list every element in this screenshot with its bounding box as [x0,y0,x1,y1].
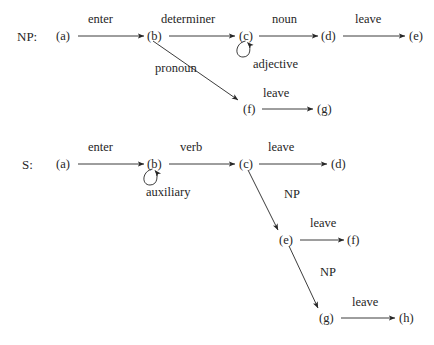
edge-label-np-leave-de: leave [355,13,381,26]
node-s-b: (b) [147,158,162,171]
edge-label-s-leave-cd: leave [268,141,294,154]
node-s-c: (c) [239,158,253,171]
machine-label-np: NP: [17,30,37,43]
edge-label-np-leave-fg: leave [263,87,289,100]
edge-label-s-leave-gh: leave [352,296,378,309]
edge-label-s-leave-ef: leave [310,217,336,230]
edge-s-auxiliary-selfloop [144,169,157,185]
node-np-b: (b) [147,30,162,43]
node-s-g: (g) [319,312,334,325]
node-np-e: (e) [409,30,423,43]
edge-s-np-eg [289,246,318,308]
node-np-c: (c) [239,30,253,43]
node-np-a: (a) [56,30,70,43]
np-edges [78,36,405,109]
edge-label-s-enter: enter [88,141,113,154]
node-s-h: (h) [399,312,414,325]
fsm-arrows-canvas [0,0,434,345]
node-s-a: (a) [56,158,70,171]
edge-s-np-ce [248,170,278,230]
node-s-d: (d) [331,158,346,171]
edge-label-s-auxiliary: auxiliary [146,186,190,199]
edge-label-s-np-eg: NP [320,266,336,279]
edge-np-adjective-selfloop [237,41,250,57]
edge-label-s-np-ce: NP [284,188,300,201]
edge-label-np-adjective: adjective [253,58,298,71]
edge-label-np-enter: enter [88,13,113,26]
machine-label-s: S: [22,158,33,171]
edge-label-s-verb: verb [180,141,202,154]
node-np-d: (d) [321,30,336,43]
node-s-f: (f) [347,234,360,247]
node-np-g: (g) [317,103,332,116]
edge-label-np-noun: noun [272,13,297,26]
edge-label-np-pronoun: pronoun [155,62,197,75]
edge-label-np-determiner: determiner [161,13,215,26]
node-np-f: (f) [243,103,256,116]
node-s-e: (e) [279,234,293,247]
fsm-figure: NP: (a) (b) (c) (d) (e) (f) (g) enter de… [0,0,434,345]
